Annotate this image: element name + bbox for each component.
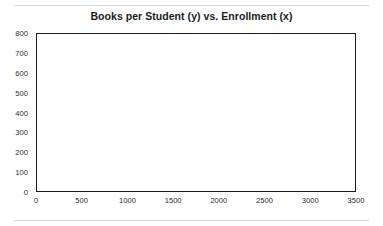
- y-tick-label: 700: [15, 48, 28, 57]
- y-tick-label: 400: [15, 108, 28, 117]
- plot-frame-border: [36, 33, 356, 192]
- y-tick-label: 100: [15, 168, 28, 177]
- y-tick-label: 500: [15, 88, 28, 97]
- x-axis-tick-labels: 0500100015002000250030003500: [36, 196, 356, 210]
- x-tick-label: 3500: [348, 196, 365, 205]
- x-tick-label: 0: [34, 196, 38, 205]
- plot-area: [36, 33, 356, 192]
- top-divider: [14, 5, 369, 6]
- chart-figure: Books per Student (y) vs. Enrollment (x)…: [0, 0, 383, 226]
- y-tick-label: 300: [15, 128, 28, 137]
- chart-title: Books per Student (y) vs. Enrollment (x): [0, 10, 383, 22]
- bottom-divider: [14, 220, 369, 221]
- x-tick-label: 1500: [165, 196, 182, 205]
- x-tick-label: 1000: [119, 196, 136, 205]
- y-tick-label: 600: [15, 68, 28, 77]
- x-tick-label: 500: [75, 196, 88, 205]
- y-tick-label: 800: [15, 29, 28, 38]
- y-axis-tick-labels: 0100200300400500600700800: [0, 33, 32, 192]
- x-tick-label: 3000: [302, 196, 319, 205]
- x-tick-label: 2000: [210, 196, 227, 205]
- x-tick-label: 2500: [256, 196, 273, 205]
- y-tick-label: 200: [15, 148, 28, 157]
- y-tick-label: 0: [24, 188, 28, 197]
